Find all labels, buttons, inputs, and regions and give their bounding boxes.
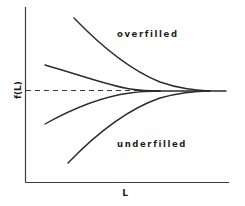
x-axis-label: L <box>122 188 128 198</box>
y-axis-label: f(L) <box>13 81 23 99</box>
fill-diagram: overfilled underfilled f(L) L <box>0 0 245 206</box>
curve-slight-underfilled <box>45 91 160 124</box>
overfilled-label: overfilled <box>117 29 179 39</box>
underfilled-label: underfilled <box>117 139 187 149</box>
curve-slight-overfilled <box>45 65 160 91</box>
curve-strong-underfilled <box>68 91 210 163</box>
